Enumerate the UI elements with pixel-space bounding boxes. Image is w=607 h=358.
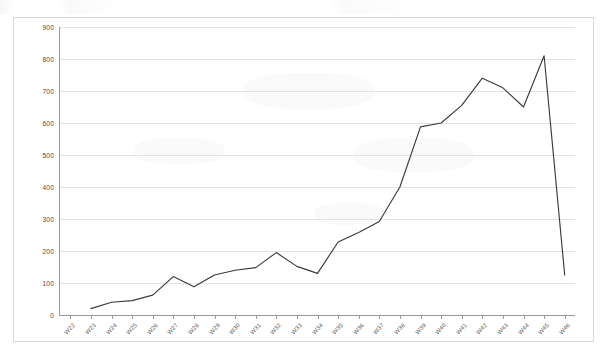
line-chart-figure: 9008007006005004003002001000 W22W23W24W2… [13,17,594,342]
series-svg [14,18,595,343]
scan-artifact-top [0,0,607,14]
data-series-line [91,56,565,309]
